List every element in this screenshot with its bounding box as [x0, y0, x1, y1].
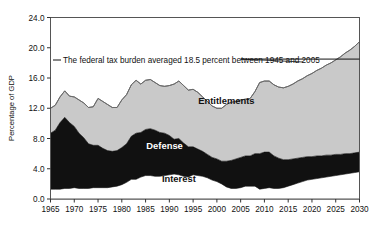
y-tick-label: 20.0	[29, 44, 45, 53]
x-tick-label: 1980	[113, 205, 132, 214]
y-axis-title: Percentage of GDP	[7, 75, 16, 141]
y-tick-label: 8.0	[33, 135, 45, 144]
y-tick-label: 24.0	[29, 14, 45, 23]
x-tick-label: 2020	[303, 205, 322, 214]
y-tick-label: 16.0	[29, 74, 45, 83]
x-tick-label: 1975	[89, 205, 108, 214]
y-tick-label: 0.0	[33, 195, 45, 204]
series-label-defense: Defense	[146, 140, 182, 151]
series-label-interest: Interest	[162, 173, 196, 184]
x-tick-label: 1990	[160, 205, 179, 214]
stacked-area-chart: The federal tax burden averaged 18.5 per…	[0, 0, 380, 234]
x-tick-label: 1985	[136, 205, 155, 214]
series-label-entitlements: Entitlements	[198, 95, 254, 106]
x-tick-label: 1970	[65, 205, 84, 214]
x-tick-label: 2015	[279, 205, 298, 214]
chart-container: The federal tax burden averaged 18.5 per…	[0, 0, 380, 234]
y-tick-label: 4.0	[33, 165, 45, 174]
x-tick-label: 1995	[184, 205, 203, 214]
x-tick-label: 2030	[350, 205, 369, 214]
reference-line-annotation: The federal tax burden averaged 18.5 per…	[63, 56, 320, 65]
y-tick-label: 12.0	[29, 104, 45, 113]
x-tick-label: 2000	[208, 205, 227, 214]
x-tick-label: 1965	[41, 205, 60, 214]
x-tick-label: 2025	[327, 205, 346, 214]
x-tick-label: 2005	[232, 205, 251, 214]
x-tick-label: 2010	[255, 205, 274, 214]
